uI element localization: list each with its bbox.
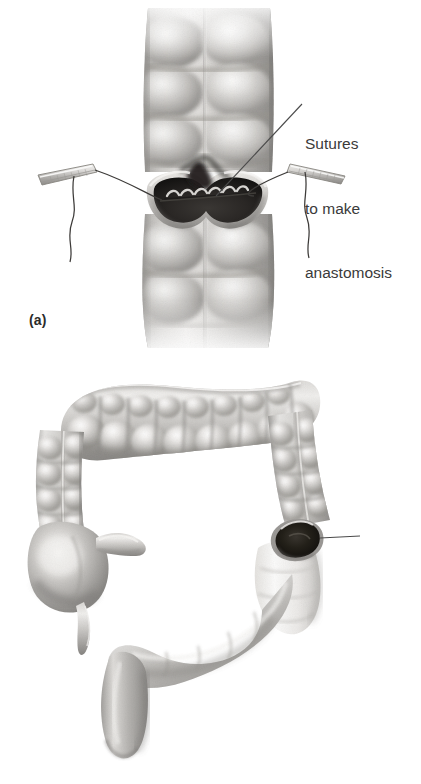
upper-bowel-segment — [137, 0, 280, 178]
appendix — [76, 602, 90, 655]
sutures-callout-text: Sutures to make anastomosis — [305, 90, 392, 327]
panel-a-anastomosis: (a) Sutures to make anastomosis — [0, 0, 421, 392]
ostomy-leader-line — [320, 536, 360, 538]
sutures-line-3: anastomosis — [305, 262, 392, 284]
rectal-stump — [101, 652, 148, 759]
panel-b-ostomy: (b) Ostomy — [0, 360, 421, 784]
lower-bowel-segment — [136, 210, 282, 354]
sutures-line-2: to make — [305, 198, 392, 220]
figure-root: (a) Sutures to make anastomosis — [0, 0, 421, 784]
descending-colon — [264, 406, 334, 534]
panel-b-illustration — [0, 360, 421, 784]
sutures-line-1: Sutures — [305, 133, 392, 155]
cecum — [28, 522, 109, 613]
panel-a-letter: (a) — [29, 312, 47, 328]
